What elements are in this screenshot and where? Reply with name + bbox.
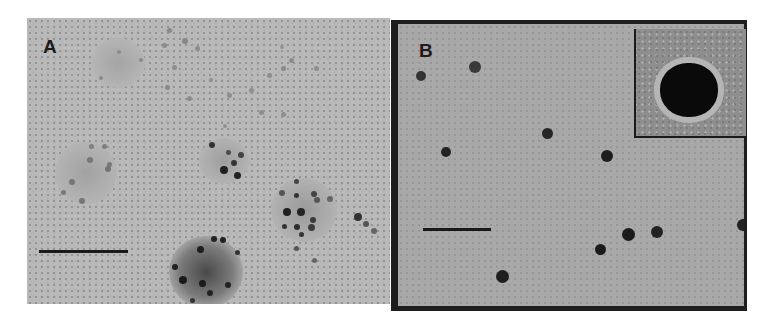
nanoparticle xyxy=(172,264,178,270)
nanoparticle xyxy=(310,217,316,223)
inset-single-particle xyxy=(634,29,746,138)
nanoparticle xyxy=(226,150,231,155)
nanoparticle xyxy=(282,224,287,229)
nanoparticle xyxy=(651,226,663,238)
nanoparticle xyxy=(211,236,217,242)
nanoparticle xyxy=(259,110,264,115)
nanoparticle xyxy=(542,128,553,139)
nanoparticle xyxy=(182,38,188,44)
domain-halo xyxy=(169,236,243,304)
panel-a-label: A xyxy=(43,36,57,58)
nanoparticle xyxy=(199,280,206,287)
nanoparticle xyxy=(312,258,317,263)
nanoparticle xyxy=(283,208,291,216)
nanoparticle xyxy=(371,228,377,234)
nanoparticle xyxy=(167,28,172,33)
nanoparticle xyxy=(99,76,103,80)
nanoparticle xyxy=(416,71,426,81)
nanoparticle xyxy=(231,160,237,166)
nanoparticle xyxy=(294,193,299,198)
nanoparticle xyxy=(187,96,192,101)
nanoparticle xyxy=(327,196,333,202)
nanoparticle xyxy=(737,219,747,231)
nanoparticle xyxy=(139,58,143,62)
nanoparticle xyxy=(267,73,272,78)
nanoparticle xyxy=(280,45,284,49)
nanoparticle xyxy=(249,88,254,93)
nanoparticle xyxy=(220,237,226,243)
nanoparticle xyxy=(314,66,319,71)
scale-bar xyxy=(423,228,491,231)
nanoparticle xyxy=(294,246,299,251)
nanoparticle xyxy=(234,172,241,179)
nanoparticle xyxy=(89,144,94,149)
nanoparticle xyxy=(297,208,305,216)
nanoparticle xyxy=(294,224,300,230)
nanoparticle xyxy=(289,58,294,63)
nanoparticle xyxy=(238,152,244,158)
nanoparticle xyxy=(235,250,240,255)
nanoparticle xyxy=(281,112,286,117)
nanoparticle xyxy=(279,190,285,196)
scale-bar xyxy=(39,250,128,253)
nanoparticle xyxy=(190,298,195,303)
nanoparticle xyxy=(87,157,93,163)
domain-halo xyxy=(91,38,145,88)
nanoparticle xyxy=(496,270,509,283)
nanoparticle xyxy=(107,162,112,167)
nanoparticle xyxy=(179,276,187,284)
nanoparticle xyxy=(162,43,167,48)
nanoparticle xyxy=(225,282,231,288)
nanoparticle xyxy=(441,147,451,157)
nanoparticle xyxy=(61,190,66,195)
nanoparticle xyxy=(102,144,107,149)
nanoparticle xyxy=(209,78,213,82)
nanoparticle xyxy=(469,61,481,73)
nanoparticle xyxy=(69,179,75,185)
nanoparticle xyxy=(281,66,286,71)
nanoparticle xyxy=(354,213,362,221)
nanoparticle xyxy=(595,244,606,255)
nanoparticle xyxy=(220,166,228,174)
nanoparticle xyxy=(207,290,213,296)
nanoparticle xyxy=(314,197,320,203)
panel-b-label: B xyxy=(419,40,433,62)
domain-halo xyxy=(199,138,249,184)
nanoparticle xyxy=(294,179,299,184)
nanoparticle xyxy=(197,246,204,253)
nanoparticle xyxy=(195,46,200,51)
nanoparticle xyxy=(601,150,613,162)
nanoparticle xyxy=(209,142,215,148)
nanoparticle xyxy=(363,221,369,227)
nanoparticle xyxy=(117,50,121,54)
panel-a-micrograph: A xyxy=(27,18,390,304)
nanoparticle-magnified xyxy=(660,63,718,117)
nanoparticle xyxy=(622,228,635,241)
nanoparticle xyxy=(79,198,85,204)
nanoparticle xyxy=(299,232,304,237)
nanoparticle xyxy=(227,93,232,98)
nanoparticle xyxy=(223,124,227,128)
nanoparticle xyxy=(165,85,170,90)
nanoparticle xyxy=(172,65,177,70)
nanoparticle xyxy=(308,224,315,231)
